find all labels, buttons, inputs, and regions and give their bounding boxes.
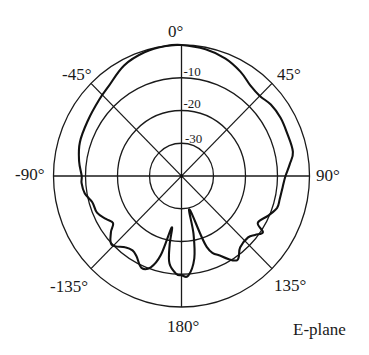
angle-label-m45: -45° <box>62 65 91 84</box>
polar-radiation-chart: 0° 45° 90° 135° 180° -135° -90° -45° -10… <box>0 0 369 355</box>
angle-label-180: 180° <box>167 317 199 336</box>
radial-label-minus30: -30 <box>185 131 202 146</box>
plane-annotation: E-plane <box>293 320 346 339</box>
center-dot <box>180 174 184 178</box>
e-plane-pattern-curve <box>79 45 293 277</box>
angle-label-135: 135° <box>274 276 306 295</box>
radial-labels: -10 -20 -30 <box>184 64 203 146</box>
angle-label-90: 90° <box>316 166 340 185</box>
radial-label-minus20: -20 <box>184 96 201 111</box>
angle-label-0: 0° <box>168 22 183 41</box>
angle-label-45: 45° <box>277 65 301 84</box>
angle-labels: 0° 45° 90° 135° 180° -135° -90° -45° <box>15 22 340 336</box>
radial-label-minus10: -10 <box>184 64 201 79</box>
angle-label-m90: -90° <box>15 165 44 184</box>
angle-label-m135: -135° <box>50 277 88 296</box>
